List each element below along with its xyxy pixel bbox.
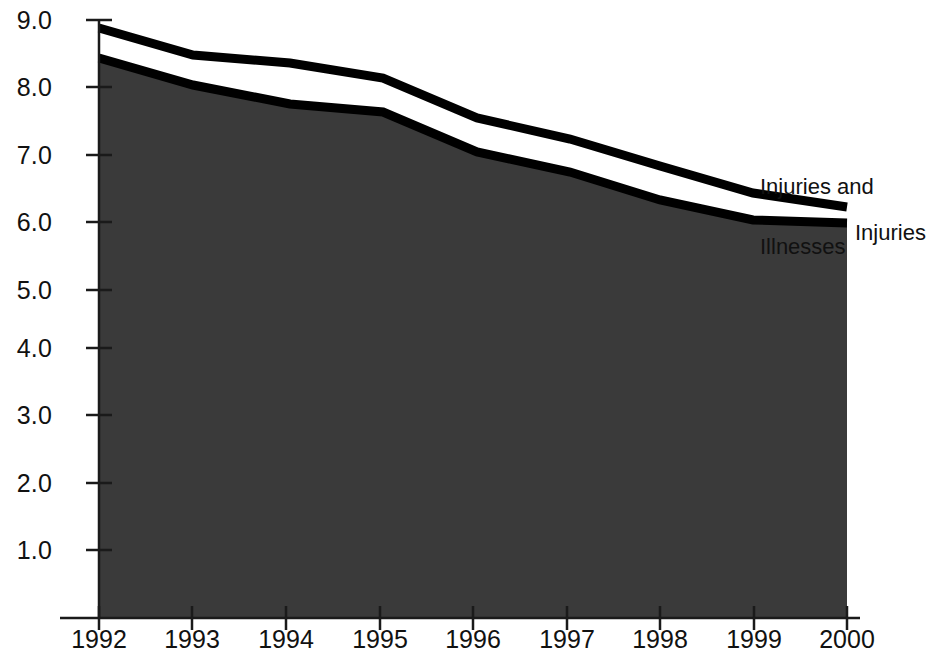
legend-label-injuries-and-illnesses: Injuries and Illnesses [760,142,874,292]
y-tick-label-4: 4.0 [0,334,52,362]
x-tick-text: 1997 [539,625,595,653]
y-tick-label-9: 9.0 [0,6,52,34]
y-tick-label-8: 8.0 [0,73,52,101]
x-tick-text: 1996 [445,625,501,653]
x-tick-text: 1995 [352,625,408,653]
x-tick-text: 1994 [258,625,314,653]
y-tick-text: 6.0 [0,208,52,237]
chart-canvas: 9.0 8.0 7.0 6.0 5.0 4.0 3.0 2.0 1.0 1992… [0,0,938,655]
x-tick-text: 1992 [71,625,127,653]
y-tick-label-7: 7.0 [0,141,52,169]
y-tick-text: 2.0 [0,469,52,498]
series-injuries-area [99,58,847,618]
y-tick-text: 8.0 [0,73,52,102]
y-tick-label-3: 3.0 [0,401,52,429]
y-tick-text: 4.0 [0,334,52,363]
y-tick-text: 3.0 [0,401,52,430]
legend-label-injuries: Injuries [855,218,926,248]
x-tick-label-2000: 2000 [792,625,902,654]
x-tick-text: 2000 [819,625,875,653]
y-tick-label-1: 1.0 [0,536,52,564]
x-tick-text: 1998 [632,625,688,653]
x-tick-text: 1999 [726,625,782,653]
x-tick-text: 1993 [164,625,220,653]
chart-svg [0,0,938,655]
y-tick-text: 1.0 [0,536,52,565]
y-tick-text: 5.0 [0,276,52,305]
y-tick-label-6: 6.0 [0,208,52,236]
y-tick-label-5: 5.0 [0,276,52,304]
legend-line-1: Injuries and [760,172,874,202]
y-tick-text: 9.0 [0,6,52,35]
y-tick-label-2: 2.0 [0,469,52,497]
y-tick-text: 7.0 [0,141,52,170]
